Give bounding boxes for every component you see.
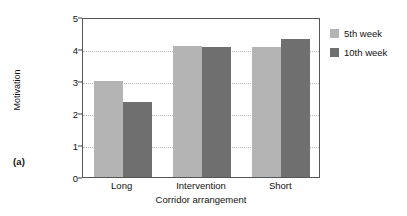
y-tick-label: 3: [56, 77, 78, 88]
figure-panel-a: (a) Motivation 012345 LongInterventionSh…: [0, 0, 407, 216]
y-tick-label: 5: [56, 13, 78, 24]
y-tick-label: 1: [56, 141, 78, 152]
bar-group: [162, 19, 241, 177]
x-axis-label: Corridor arrangement: [82, 194, 320, 205]
legend: 5th week10th week: [330, 28, 404, 66]
x-tick-label: Intervention: [176, 180, 226, 191]
bar: [173, 46, 202, 177]
y-tick-label: 4: [56, 45, 78, 56]
bar: [94, 81, 123, 177]
bar: [123, 102, 152, 177]
bar-group: [83, 19, 162, 177]
bar: [202, 47, 231, 177]
y-tick-label: 2: [56, 109, 78, 120]
y-axis-tick-labels: 012345: [56, 0, 78, 216]
bar: [252, 47, 281, 177]
y-tick-label: 0: [56, 173, 78, 184]
x-tick-label: Short: [269, 180, 292, 191]
legend-swatch-10th-week: [330, 48, 339, 57]
plot-area: [82, 18, 320, 178]
legend-item: 10th week: [330, 47, 404, 58]
legend-label: 5th week: [344, 28, 382, 39]
bar: [281, 39, 310, 177]
bar-group: [242, 19, 321, 177]
x-tick-label: Long: [111, 180, 132, 191]
panel-label: (a): [13, 156, 25, 167]
legend-label: 10th week: [344, 47, 387, 58]
legend-swatch-5th-week: [330, 29, 339, 38]
y-axis-label: Motivation: [12, 47, 22, 133]
legend-item: 5th week: [330, 28, 404, 39]
